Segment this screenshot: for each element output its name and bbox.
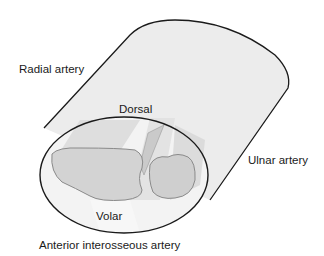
- ulnar-artery-label: Ulnar artery: [248, 155, 308, 167]
- anterior-interosseous-artery-label: Anterior interosseous artery: [39, 240, 180, 252]
- volar-label: Volar: [96, 211, 122, 223]
- forearm-cylinder-illustration: [0, 0, 324, 256]
- forearm-diagram: Radial artery Dorsal Ulnar artery Volar …: [0, 0, 324, 256]
- dorsal-label: Dorsal: [119, 104, 152, 116]
- radial-artery-label: Radial artery: [19, 64, 84, 76]
- ulna-bone: [149, 155, 195, 199]
